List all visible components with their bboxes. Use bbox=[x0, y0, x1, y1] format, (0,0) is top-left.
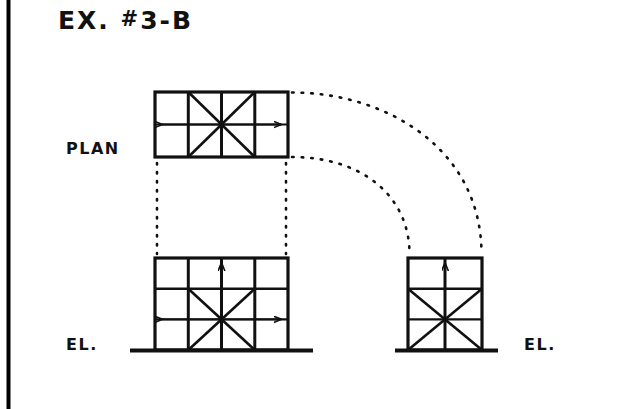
elevation-left-group bbox=[130, 258, 313, 351]
transfer-arc-outer bbox=[292, 93, 482, 255]
page-title: EX. #3-B bbox=[58, 6, 193, 35]
hash-symbol: # bbox=[121, 7, 141, 31]
plan-view-group bbox=[155, 92, 288, 157]
projection-lines-group bbox=[157, 93, 482, 255]
elevation-right-group bbox=[395, 258, 498, 351]
transfer-arc-inner bbox=[292, 157, 410, 254]
title-number: 3-B bbox=[140, 6, 193, 35]
elevation-left-label: EL. bbox=[66, 335, 98, 354]
plan-view-label: PLAN bbox=[66, 139, 120, 158]
elevation-right-label: EL. bbox=[524, 335, 556, 354]
drawing-sheet: EX. #3-B PLAN EL. EL. bbox=[0, 0, 620, 409]
title-prefix: EX. bbox=[58, 6, 121, 35]
